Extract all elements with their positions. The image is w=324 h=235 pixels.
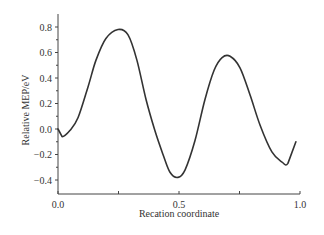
axes bbox=[58, 14, 300, 194]
y-tick-label: 0.6 bbox=[40, 47, 53, 58]
x-tick-label: 0.0 bbox=[52, 199, 65, 210]
x-axis-title: Recation coordinate bbox=[139, 208, 220, 219]
y-tick-label: 0.4 bbox=[40, 73, 53, 84]
y-tick-label: −0.2 bbox=[34, 149, 52, 160]
y-tick-label: 0.0 bbox=[40, 124, 53, 135]
y-tick-label: −0.4 bbox=[34, 175, 52, 186]
x-tick-label: 1.0 bbox=[294, 199, 307, 210]
y-tick-label: 0.8 bbox=[40, 22, 53, 33]
ticks: 0.80.60.40.20.0−0.2−0.40.00.51.0 bbox=[34, 22, 306, 211]
mep-curve bbox=[58, 29, 296, 177]
mep-line-chart: 0.80.60.40.20.0−0.2−0.40.00.51.0 Recatio… bbox=[0, 0, 324, 235]
y-axis-title: Relative MEP/eV bbox=[20, 74, 31, 146]
y-tick-label: 0.2 bbox=[40, 98, 53, 109]
